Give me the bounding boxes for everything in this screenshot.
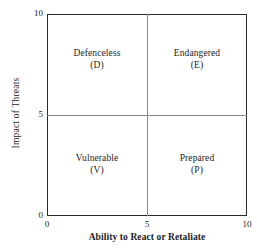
quadrant-label-vulnerable: Vulnerable (V): [47, 152, 147, 176]
x-axis-tick-10: 10: [239, 219, 255, 229]
quadrant-code-endangered: (E): [147, 59, 247, 71]
quadrant-code-vulnerable: (V): [47, 164, 147, 176]
quadrant-name-endangered: Endangered: [147, 47, 247, 59]
quadrant-name-defenceless: Defenceless: [47, 47, 147, 59]
x-axis-title: Ability to React or Retaliate: [47, 232, 247, 242]
quadrant-name-prepared: Prepared: [147, 152, 247, 164]
quadrant-code-prepared: (P): [147, 164, 247, 176]
y-axis-tick-5: 5: [27, 109, 43, 119]
threat-matrix-chart: Defenceless (D) Endangered (E) Vulnerabl…: [0, 0, 257, 251]
quadrant-code-defenceless: (D): [47, 59, 147, 71]
quadrant-label-prepared: Prepared (P): [147, 152, 247, 176]
y-axis-title: Impact of Threats: [11, 53, 21, 173]
quadrant-divider-horizontal: [47, 115, 247, 116]
x-axis-tick-0: 0: [39, 219, 55, 229]
quadrant-label-endangered: Endangered (E): [147, 47, 247, 71]
quadrant-label-defenceless: Defenceless (D): [47, 47, 147, 71]
x-axis-tick-5: 5: [139, 219, 155, 229]
y-axis-tick-10: 10: [27, 8, 43, 18]
quadrant-name-vulnerable: Vulnerable: [47, 152, 147, 164]
